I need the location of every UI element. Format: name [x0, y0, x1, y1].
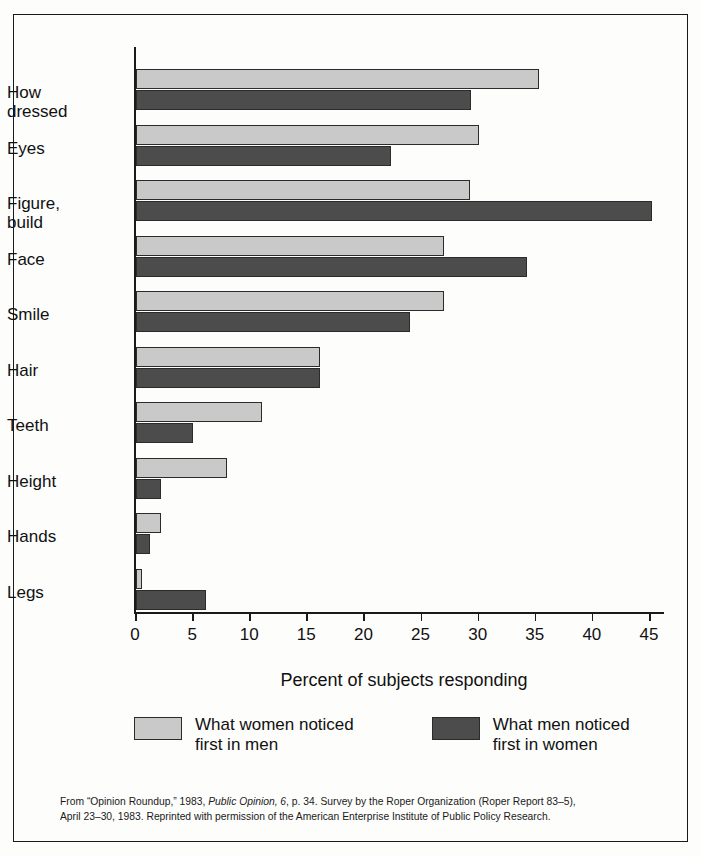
x-axis-title: Percent of subjects responding	[134, 670, 674, 691]
bar-row: Hands	[136, 513, 664, 554]
x-tick-label: 45	[640, 625, 659, 645]
chart-legend: What women noticed first in menWhat men …	[134, 715, 654, 754]
caption-line1-part-a: From “Opinion Roundup,” 1983,	[60, 796, 208, 807]
bar-women	[136, 458, 227, 478]
legend-swatch-dark	[432, 717, 480, 740]
legend-item: What women noticed first in men	[134, 715, 354, 754]
bar-row: Eyes	[136, 125, 664, 166]
x-tick-label: 40	[582, 625, 601, 645]
category-label: Hands	[7, 527, 122, 546]
bar-men	[136, 479, 161, 499]
category-label: How dressed	[7, 83, 122, 121]
bar-row: Smile	[136, 291, 664, 332]
x-tick	[649, 612, 651, 621]
legend-label: What men noticed first in women	[493, 715, 630, 754]
category-label: Hair	[7, 361, 122, 380]
bar-men	[136, 534, 150, 554]
bar-women	[136, 291, 444, 311]
caption-line2: April 23–30, 1983. Reprinted with permis…	[60, 811, 551, 822]
legend-item: What men noticed first in women	[432, 715, 630, 754]
category-label: Eyes	[7, 139, 122, 158]
bar-row: Hair	[136, 347, 664, 388]
bar-women	[136, 569, 142, 589]
bar-women	[136, 402, 262, 422]
caption-line1-part-b: , p. 34. Survey by the Roper Organizatio…	[286, 796, 576, 807]
bar-women	[136, 180, 470, 200]
x-axis-line	[134, 612, 664, 614]
bar-men	[136, 590, 206, 610]
chart-frame: How dressedEyesFigure, buildFaceSmileHai…	[13, 14, 688, 842]
bar-men	[136, 90, 471, 110]
x-tick-label: 25	[411, 625, 430, 645]
category-label: Legs	[7, 583, 122, 602]
plot-area: How dressedEyesFigure, buildFaceSmileHai…	[134, 47, 674, 612]
x-tick	[135, 612, 137, 621]
x-tick-label: 0	[130, 625, 139, 645]
bar-row: Legs	[136, 569, 664, 610]
legend-label: What women noticed first in men	[195, 715, 354, 754]
bar-women	[136, 236, 444, 256]
caption-line1-italic: Public Opinion, 6	[208, 796, 286, 807]
bar-women	[136, 69, 539, 89]
x-tick-label: 20	[354, 625, 373, 645]
bar-men	[136, 201, 652, 221]
category-label: Figure, build	[7, 194, 122, 232]
bar-row: How dressed	[136, 69, 664, 110]
x-tick	[363, 612, 365, 621]
chart-page: How dressedEyesFigure, buildFaceSmileHai…	[0, 0, 701, 856]
bar-women	[136, 513, 161, 533]
bar-women	[136, 125, 479, 145]
x-tick-label: 5	[187, 625, 196, 645]
bar-men	[136, 312, 410, 332]
category-label: Teeth	[7, 416, 122, 435]
x-tick-label: 15	[297, 625, 316, 645]
bar-men	[136, 257, 527, 277]
bar-row: Figure, build	[136, 180, 664, 221]
legend-swatch-light	[134, 717, 182, 740]
x-tick	[421, 612, 423, 621]
bar-men	[136, 368, 320, 388]
category-label: Face	[7, 250, 122, 269]
source-caption: From “Opinion Roundup,” 1983, Public Opi…	[60, 795, 660, 825]
x-tick-label: 30	[468, 625, 487, 645]
x-tick	[478, 612, 480, 621]
x-tick	[592, 612, 594, 621]
bar-row: Face	[136, 236, 664, 277]
bar-women	[136, 347, 320, 367]
bar-row: Height	[136, 458, 664, 499]
x-tick	[249, 612, 251, 621]
x-tick	[535, 612, 537, 621]
bar-men	[136, 146, 391, 166]
category-label: Smile	[7, 305, 122, 324]
x-tick-label: 35	[525, 625, 544, 645]
category-label: Height	[7, 472, 122, 491]
x-tick-label: 10	[240, 625, 259, 645]
x-tick	[192, 612, 194, 621]
x-tick	[306, 612, 308, 621]
bar-row: Teeth	[136, 402, 664, 443]
bar-men	[136, 423, 193, 443]
